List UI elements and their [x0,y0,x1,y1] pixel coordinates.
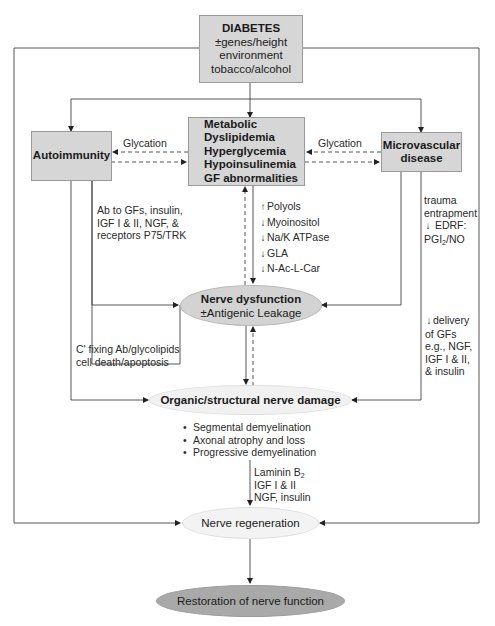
microvascular-factor: entrapment [424,207,477,220]
complement-mechanism: C' fixing Ab/glycolipids cell death/apop… [76,343,180,368]
diabetic-neuropathy-flowchart: DIABETES ±genes/height environment tobac… [0,0,495,626]
metabolic-factor: ↓Na/K ATPase [259,230,329,246]
diabetes-factor: environment [219,49,282,63]
regeneration-factors: Laminin B2 IGF I & II NGF, insulin [254,466,311,504]
arrow-down-icon: ↓ [259,247,267,262]
microvascular-factor: trauma [424,194,477,207]
delivery-line: & insulin [425,365,472,378]
damage-bullet: Segmental demyelination [183,421,316,434]
complement-line: cell death/apoptosis [76,356,180,369]
diabetes-factor: tobacco/alcohol [211,63,291,77]
metabolic-line: GF abnormalities [204,172,304,186]
microvascular-box: Microvascular disease [381,132,462,172]
metabolic-factors-list: ↑Polyols ↓Myoinositol ↓Na/K ATPase ↓GLA … [259,199,329,277]
regeneration-factor: IGF I & II [254,479,311,492]
metabolic-line: Metabolic [204,118,304,132]
restoration-node: Restoration of nerve function [156,585,345,617]
microvascular-line: disease [400,152,442,166]
microvascular-factors: trauma entrapment ↓ EDRF: PGI2/NO [424,194,477,245]
arrow-down-icon: ↓ [425,315,433,328]
organic-damage-title: Organic/structural nerve damage [160,393,340,407]
damage-bullet: Progressive demyelination [183,446,316,459]
delivery-line: e.g., NGF, [425,340,472,353]
delivery-line: IGF I & II, [425,353,472,366]
nerve-regeneration-title: Nerve regeneration [201,516,299,530]
growth-factor-delivery: ↓delivery of GFs e.g., NGF, IGF I & II, … [425,314,472,378]
arrow-up-icon: ↑ [259,200,267,215]
glycation-label-left: Glycation [123,137,167,150]
nerve-dysfunction-title: Nerve dysfunction [201,292,301,306]
antibody-line: IGF I & II, NGF, & [97,217,186,230]
complement-line: C' fixing Ab/glycolipids [76,343,180,356]
metabolic-box: Metabolic Dyslipidemia Hyperglycemia Hyp… [188,117,305,186]
delivery-line: ↓delivery [425,314,472,328]
antibody-line: Ab to GFs, insulin, [97,204,186,217]
metabolic-line: Dyslipidemia [204,131,304,145]
organic-damage-node: Organic/structural nerve damage [149,385,352,415]
arrow-down-icon: ↓ [259,231,267,246]
metabolic-factor: ↓Myoinositol [259,215,329,231]
metabolic-factor: ↓GLA [259,246,329,262]
arrow-down-icon: ↓ [424,220,432,233]
arrow-down-icon: ↓ [259,216,267,231]
microvascular-factor: PGI2/NO [424,233,477,246]
regeneration-factor: NGF, insulin [254,491,311,504]
nerve-dysfunction-node: Nerve dysfunction ±Antigenic Leakage [180,285,322,326]
regeneration-factor: Laminin B2 [254,466,311,479]
diabetes-box: DIABETES ±genes/height environment tobac… [199,15,303,83]
antibody-targets: Ab to GFs, insulin, IGF I & II, NGF, & r… [97,204,186,242]
nerve-dysfunction-subtitle: ±Antigenic Leakage [201,306,302,320]
microvascular-factor: ↓ EDRF: [424,219,477,233]
arrow-down-icon: ↓ [259,262,267,277]
antibody-line: receptors P75/TRK [97,229,186,242]
restoration-title: Restoration of nerve function [177,594,324,608]
diabetes-factor: ±genes/height [215,36,287,50]
metabolic-line: Hypoinsulinemia [204,158,304,172]
metabolic-factor: ↑Polyols [259,199,329,215]
microvascular-line: Microvascular [383,139,460,153]
diabetes-title: DIABETES [222,22,280,36]
glycation-label-right: Glycation [318,137,362,150]
delivery-line: of GFs [425,328,472,341]
metabolic-factor: ↓N-Ac-L-Car [259,261,329,277]
autoimmunity-title: Autoimmunity [33,149,110,163]
autoimmunity-box: Autoimmunity [31,131,112,181]
damage-bullet-list: Segmental demyelination Axonal atrophy a… [183,421,316,459]
damage-bullet: Axonal atrophy and loss [183,434,316,447]
metabolic-line: Hyperglycemia [204,145,304,159]
nerve-regeneration-node: Nerve regeneration [182,507,319,539]
